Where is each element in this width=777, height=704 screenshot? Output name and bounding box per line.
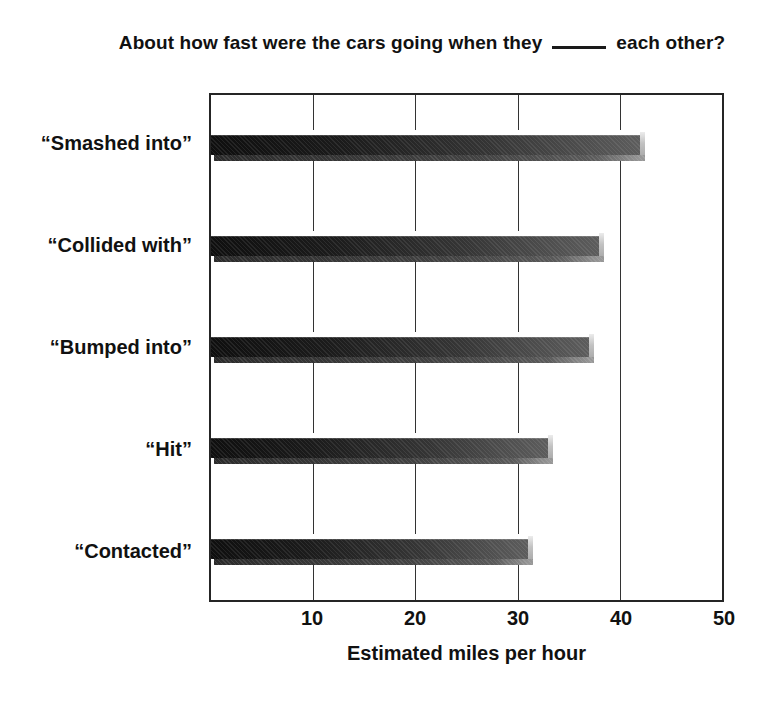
chart-title-suffix: each other? [616, 32, 725, 53]
bar-bottom-shadow [214, 256, 604, 262]
bar-row-bumped-into [211, 297, 722, 398]
bar-smashed-into [211, 130, 640, 161]
x-axis-label: Estimated miles per hour [209, 642, 724, 665]
bar-bottom-shadow [214, 559, 533, 565]
bar-row-contacted [211, 499, 722, 600]
bar-front-face [211, 236, 599, 256]
bar-end-cap [640, 132, 645, 157]
x-axis-ticks: 1020304050 [209, 607, 724, 635]
bar-row-collided-with [211, 196, 722, 297]
bar-contacted [211, 534, 528, 565]
bar-end-cap [589, 334, 594, 359]
tick-label-30: 30 [507, 607, 529, 630]
bar-hit [211, 433, 548, 464]
bar-chart-figure: About how fast were the cars going when … [0, 0, 777, 704]
bar-row-smashed-into [211, 95, 722, 196]
tick-label-40: 40 [610, 607, 632, 630]
category-label-collided-with: “Collided with” [0, 195, 201, 297]
bar-collided-with [211, 231, 599, 262]
bar-front-face [211, 539, 528, 559]
category-labels: “Smashed into”“Collided with”“Bumped int… [0, 93, 201, 602]
title-blank-line [552, 30, 606, 49]
bar-bumped-into [211, 332, 589, 363]
bar-bottom-shadow [214, 357, 594, 363]
bar-row-hit [211, 398, 722, 499]
category-label-bumped-into: “Bumped into” [0, 297, 201, 399]
tick-label-10: 10 [301, 607, 323, 630]
bar-front-face [211, 135, 640, 155]
bar-rows [211, 95, 722, 600]
category-label-hit: “Hit” [0, 398, 201, 500]
bar-front-face [211, 337, 589, 357]
bar-end-cap [528, 536, 533, 561]
category-label-smashed-into: “Smashed into” [0, 93, 201, 195]
category-label-contacted: “Contacted” [0, 500, 201, 602]
tick-label-20: 20 [404, 607, 426, 630]
bar-front-face [211, 438, 548, 458]
chart-title-prefix: About how fast were the cars going when … [119, 32, 543, 53]
bar-end-cap [599, 233, 604, 258]
bar-end-cap [548, 435, 553, 460]
bar-bottom-shadow [214, 155, 645, 161]
bar-bottom-shadow [214, 458, 553, 464]
chart-title: About how fast were the cars going when … [67, 30, 777, 54]
plot-area [209, 93, 724, 602]
tick-label-50: 50 [713, 607, 735, 630]
